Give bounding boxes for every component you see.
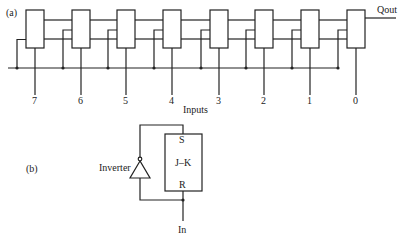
input-number-label: 6 xyxy=(78,95,83,106)
bus-feed-wire xyxy=(154,30,163,68)
flipflop-box xyxy=(117,10,135,48)
inputs-label: Inputs xyxy=(183,104,208,115)
input-number-label: 1 xyxy=(307,95,312,106)
junction-dot xyxy=(244,66,247,69)
junction-dot xyxy=(336,66,339,69)
bus-feed-wire xyxy=(292,30,301,68)
junction-dot xyxy=(152,66,155,69)
input-to-inverter-wire xyxy=(140,178,183,200)
bus-feed-wire xyxy=(63,30,72,68)
input-number-label: 7 xyxy=(32,95,37,106)
part-b-flipflop-circuit xyxy=(130,125,202,221)
junction-dot xyxy=(15,66,18,69)
qout-label: Qout xyxy=(377,4,397,15)
flipflop-box xyxy=(255,10,273,48)
inverter-bubble-icon xyxy=(138,157,142,161)
input-number-label: 5 xyxy=(123,95,128,106)
junction-dot xyxy=(290,66,293,69)
junction-dot xyxy=(181,198,184,201)
reset-input-label: R xyxy=(179,179,186,190)
inverter-label: Inverter xyxy=(99,162,131,173)
bus-feed-wire xyxy=(108,30,117,68)
flipflop-box xyxy=(26,10,44,48)
bus-feed-wire xyxy=(201,30,210,68)
bus-feed-wire xyxy=(338,30,347,68)
input-number-label: 2 xyxy=(261,95,266,106)
in-label: In xyxy=(178,224,186,235)
bus-feed-wire xyxy=(246,30,255,68)
input-number-label: 3 xyxy=(216,95,221,106)
input-number-label: 0 xyxy=(353,95,358,106)
flipflop-box xyxy=(301,10,319,48)
junction-dot xyxy=(106,66,109,69)
flipflop-box xyxy=(163,10,181,48)
part-a-label: (a) xyxy=(6,7,17,19)
flipflop-box xyxy=(347,10,365,48)
junction-dot xyxy=(199,66,202,69)
set-input-label: S xyxy=(179,134,185,145)
shift-register-diagram: (a) Qout Inputs 76543210 (b) Inverter S … xyxy=(0,0,406,237)
bus-feed-wire xyxy=(17,40,26,69)
input-number-label: 4 xyxy=(169,95,174,106)
inverter-triangle-icon xyxy=(130,161,150,178)
junction-dot xyxy=(61,66,64,69)
part-a-register-chain xyxy=(8,10,396,95)
flipflop-box xyxy=(210,10,228,48)
inverter-to-set-wire xyxy=(140,125,183,158)
jk-label: J–K xyxy=(175,157,192,168)
part-b-label: (b) xyxy=(26,163,38,175)
flipflop-box xyxy=(72,10,90,48)
